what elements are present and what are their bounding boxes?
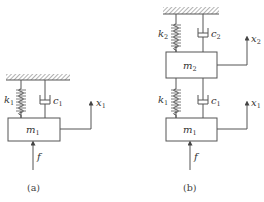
spring-k1-b <box>171 78 181 118</box>
displacement-x1-arrow-b <box>217 103 247 129</box>
svg-text:k1: k1 <box>158 94 168 107</box>
svg-text:x1: x1 <box>96 97 106 110</box>
svg-text:c2: c2 <box>211 28 221 41</box>
ceiling-a <box>6 74 70 80</box>
damper-c1-a <box>40 80 50 118</box>
mass-m2-label-b: m <box>183 60 192 71</box>
mass-m1-label-b: m <box>183 124 192 135</box>
ceiling-b <box>163 7 219 14</box>
spring-k2-b <box>171 14 181 53</box>
caption-a: (a) <box>27 182 40 193</box>
force-label-b: f <box>193 151 200 162</box>
displacement-x1-arrow-a <box>60 103 91 129</box>
svg-text:c1: c1 <box>53 95 63 108</box>
svg-text:x2: x2 <box>251 33 261 46</box>
svg-text:k1: k1 <box>4 94 14 107</box>
svg-text:k2: k2 <box>158 28 168 41</box>
figure-a: k1 c1 m1 x1 f (a) <box>4 74 106 193</box>
caption-b: (b) <box>183 182 197 193</box>
force-label-a: f <box>36 151 43 162</box>
damper-c2-b <box>198 14 208 52</box>
mass-m1-label-a: m <box>26 124 35 135</box>
figure-b: k2 c2 m2 x2 k1 c1 <box>158 7 261 193</box>
svg-text:c1: c1 <box>211 95 221 108</box>
damper-c1-b <box>198 78 208 118</box>
svg-text:x1: x1 <box>251 97 261 110</box>
displacement-x2-arrow-b <box>217 38 247 65</box>
spring-k1-a <box>16 80 26 118</box>
